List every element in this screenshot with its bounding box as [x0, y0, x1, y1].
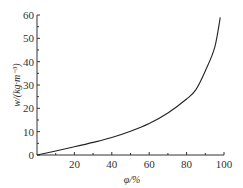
moisture-curve-chart: 0102030405060 20406080100 φ/% w/(kg·m⁻³)	[0, 0, 243, 188]
x-tick-label: 100	[216, 158, 233, 170]
y-tick-label: 30	[23, 79, 35, 91]
y-axis-label: w/(kg·m⁻³)	[11, 63, 23, 107]
y-tick-label: 10	[23, 126, 35, 138]
y-tick-label: 0	[29, 149, 35, 161]
x-tick-label: 40	[106, 158, 118, 170]
x-tick-label: 80	[181, 158, 193, 170]
y-tick-label: 20	[23, 102, 35, 114]
y-tick-label: 50	[23, 32, 35, 44]
x-tick-label: 20	[69, 158, 81, 170]
axes	[37, 15, 224, 155]
y-tick-label: 40	[23, 56, 35, 68]
x-tick-label: 60	[144, 158, 156, 170]
data-series-line	[37, 17, 220, 155]
y-tick-label: 60	[23, 9, 35, 21]
x-axis-label: φ/%	[124, 174, 141, 185]
